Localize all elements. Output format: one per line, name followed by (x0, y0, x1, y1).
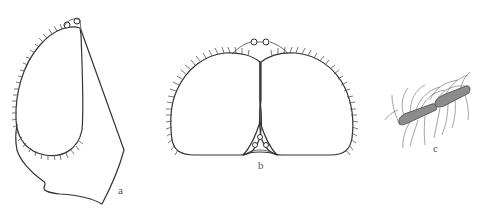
panel-b-head-dorsal (166, 39, 358, 155)
ocellus-top-1 (251, 39, 257, 45)
setae-b-right (271, 47, 358, 155)
ocellus-b-2 (253, 143, 258, 148)
setae-b-left (166, 47, 249, 155)
right-compound-eye (260, 53, 353, 155)
panel-label-b: b (258, 160, 264, 171)
ocellus-top-2 (263, 39, 269, 45)
vertex-arch (232, 42, 288, 54)
ocellus-b-3 (264, 143, 269, 148)
panel-a-head-lateral (12, 18, 124, 204)
antenna-segment-1 (399, 104, 437, 125)
setae-a (12, 24, 83, 160)
panel-c-antenna (385, 72, 470, 148)
compound-eye-outline (16, 27, 83, 156)
ocellus-b-1 (258, 135, 263, 140)
panel-label-c: c (433, 143, 438, 154)
antenna-segment-2 (435, 86, 470, 107)
panel-label-a: a (118, 185, 123, 196)
left-compound-eye (171, 53, 262, 155)
illustration-canvas: .ln { fill: none; stroke: #333; stroke-w… (0, 0, 478, 214)
